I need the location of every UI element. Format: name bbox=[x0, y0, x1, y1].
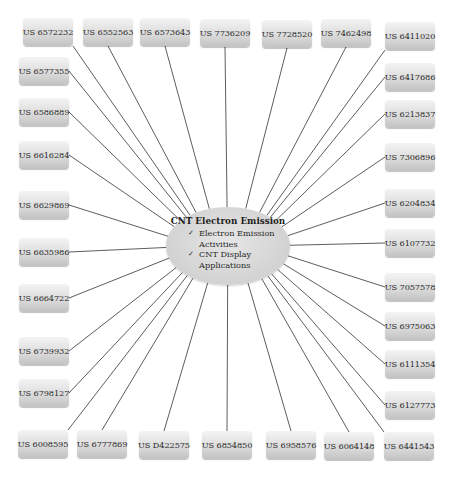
connector-line bbox=[69, 247, 166, 252]
patent-box: US 6616284 bbox=[19, 141, 69, 169]
patent-box: US 6854850 bbox=[202, 431, 252, 459]
connector-line bbox=[260, 47, 346, 212]
connector-line bbox=[68, 275, 187, 430]
connector-line bbox=[102, 278, 193, 430]
patent-box: US 6417686 bbox=[385, 63, 435, 91]
connector-line bbox=[288, 256, 385, 287]
connector-line bbox=[108, 46, 196, 213]
patent-box: US 6577355 bbox=[19, 57, 69, 85]
patent-box: US 6777869 bbox=[77, 430, 127, 458]
patent-box: US D422575 bbox=[139, 431, 189, 459]
central-topic-ellipse: CNT Electron Emission ✓ Electron Emissio… bbox=[166, 207, 290, 285]
connector-line bbox=[165, 46, 209, 209]
patent-box: US 6586889 bbox=[19, 98, 69, 126]
patent-box: US 6635986 bbox=[19, 238, 69, 266]
patent-box: US 6975063 bbox=[385, 312, 435, 340]
patent-box: US 6573643 bbox=[140, 18, 190, 46]
connector-line bbox=[227, 285, 228, 431]
connector-line bbox=[225, 47, 227, 207]
patent-box: US 6552563 bbox=[83, 18, 133, 46]
connector-line bbox=[278, 269, 385, 364]
hub-item-cnt-display: ✓ CNT Display Applications bbox=[188, 249, 275, 270]
connector-line bbox=[268, 276, 384, 432]
patent-box: US 6572232 bbox=[23, 18, 73, 46]
patent-box: US 6958576 bbox=[266, 431, 316, 459]
patent-landscape-diagram: US 6572232US 6552563US 6573643US 7736209… bbox=[0, 0, 453, 480]
patent-box: US 7728520 bbox=[262, 20, 312, 48]
patent-box: US 6204834 bbox=[385, 189, 435, 217]
patent-box: US 7057578 bbox=[385, 273, 435, 301]
patent-box: US 6664722 bbox=[19, 284, 69, 312]
patent-box: US 6111354 bbox=[385, 350, 435, 378]
connector-line bbox=[262, 279, 349, 432]
connector-line bbox=[69, 258, 169, 298]
patent-box: US 6798127 bbox=[19, 379, 69, 407]
hub-item-electron-emission: ✓ Electron Emission Activities bbox=[188, 228, 275, 249]
hub-bullet-list: ✓ Electron Emission Activities ✓ CNT Dis… bbox=[188, 228, 275, 270]
patent-box: US 6629869 bbox=[19, 191, 69, 219]
connector-line bbox=[73, 46, 190, 215]
connector-line bbox=[270, 77, 385, 217]
patent-box: US 7462498 bbox=[321, 19, 371, 47]
connector-line bbox=[246, 48, 287, 209]
connector-line bbox=[282, 157, 385, 227]
connector-line bbox=[288, 203, 385, 236]
patent-box: US 6008595 bbox=[18, 430, 68, 458]
patent-box: US 6739932 bbox=[19, 337, 69, 365]
connector-line bbox=[272, 274, 385, 405]
connector-line bbox=[164, 283, 208, 431]
patent-box: US 6064148 bbox=[324, 432, 374, 460]
connector-line bbox=[69, 155, 174, 227]
patent-box: US 6213837 bbox=[385, 100, 435, 128]
patent-box: US 7306896 bbox=[385, 143, 435, 171]
connector-line bbox=[69, 267, 176, 351]
connector-line bbox=[290, 243, 385, 245]
patent-box: US 6441543 bbox=[384, 432, 434, 460]
patent-box: US 6127773 bbox=[385, 391, 435, 419]
connector-line bbox=[69, 272, 182, 393]
check-icon: ✓ bbox=[188, 249, 194, 260]
patent-box: US 6411020 bbox=[385, 22, 435, 50]
hub-title: CNT Electron Emission bbox=[166, 216, 290, 226]
patent-box: US 6107732 bbox=[385, 229, 435, 257]
check-icon: ✓ bbox=[188, 228, 194, 239]
connector-line bbox=[69, 205, 168, 236]
connector-line bbox=[267, 50, 385, 216]
patent-box: US 7736209 bbox=[200, 19, 250, 47]
connector-line bbox=[275, 114, 385, 221]
connector-line bbox=[248, 283, 291, 431]
